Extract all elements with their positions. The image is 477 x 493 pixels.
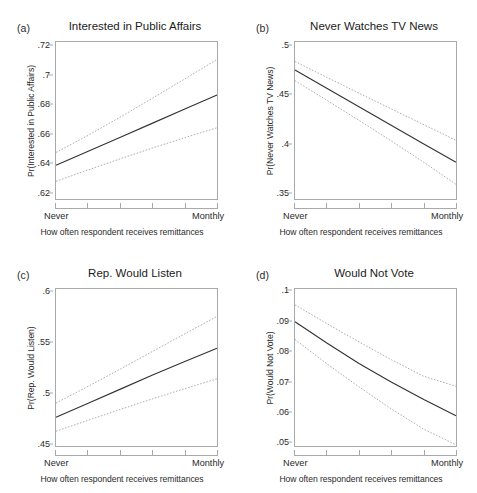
panel-d-ytick-mark — [287, 442, 292, 443]
panel-a-ytick-mark — [48, 163, 53, 164]
panel-b-ci-line — [295, 81, 456, 185]
panel-c: (c) Rep. Would Listen Pr(Rep. Would List… — [0, 247, 238, 493]
panel-a-xtick-mark — [185, 203, 186, 208]
panel-a-ytick-mark — [48, 133, 53, 134]
panel-d-title: Would Not Vote — [279, 267, 469, 279]
panel-c-y-ticks: .45.5.55.6 — [0, 288, 50, 447]
panel-d: (d) Would Not Vote Pr(Would Not Vote) .0… — [239, 247, 477, 493]
panel-a-plot-area — [55, 41, 218, 200]
panel-b-xtick-mark — [456, 203, 457, 208]
panel-d-fit-line — [295, 322, 456, 416]
panel-a-ytick-mark — [48, 74, 53, 75]
panel-d-svg — [295, 289, 456, 446]
panel-b-svg — [295, 42, 456, 199]
panel-a-ytick-mark — [48, 45, 53, 46]
panel-b-tag: (b) — [256, 22, 269, 34]
panel-c-x-axis-title: How often respondent receives remittance… — [22, 474, 222, 484]
panel-c-xtick-mark — [152, 450, 153, 455]
panel-d-plot-area — [294, 288, 457, 447]
panel-c-tag: (c) — [17, 269, 30, 281]
panel-a-xtick-mark — [55, 203, 56, 208]
panel-c-xtick-mark — [217, 450, 218, 455]
panel-b-x-axis-line — [294, 208, 457, 209]
panel-a-xtick-mark — [217, 203, 218, 208]
panel-b-title: Never Watches TV News — [279, 20, 469, 32]
panel-c-xtick-mark — [87, 450, 88, 455]
panel-b: (b) Never Watches TV News Pr(Never Watch… — [239, 0, 477, 246]
panel-c-xtick-mark — [55, 450, 56, 455]
panel-a-xtick-monthly: Monthly — [192, 211, 224, 221]
panel-c-x-axis-line — [55, 455, 218, 456]
panel-b-fit-line — [295, 70, 456, 162]
panel-b-xtick-mark — [424, 203, 425, 208]
panel-b-xtick-mark — [359, 203, 360, 208]
panel-c-ci-line — [56, 379, 217, 431]
panel-b-xtick-monthly: Monthly — [431, 211, 463, 221]
panel-b-xtick-mark — [391, 203, 392, 208]
panel-d-x-axis-title: How often respondent receives remittance… — [261, 474, 461, 484]
panel-c-xtick-never: Never — [44, 458, 69, 468]
figure-four-panel-predicted-probabilities: (a) Interested in Public Affairs Pr(Inte… — [0, 0, 477, 493]
panel-d-xtick-mark — [294, 450, 295, 455]
panel-d-ci-line — [295, 305, 456, 386]
panel-b-ytick-mark — [287, 44, 292, 45]
panel-a-xtick-never: Never — [44, 211, 69, 221]
panel-b-plot-area — [294, 41, 457, 200]
panel-d-ytick-mark — [287, 351, 292, 352]
panel-b-ci-line — [295, 62, 456, 141]
panel-d-tag: (d) — [256, 269, 269, 281]
panel-a-xtick-mark — [120, 203, 121, 208]
panel-a: (a) Interested in Public Affairs Pr(Inte… — [0, 0, 238, 246]
panel-d-ci-line — [295, 339, 456, 444]
panel-b-xtick-mark — [326, 203, 327, 208]
panel-c-plot-area — [55, 288, 218, 447]
panel-a-x-axis-line — [55, 208, 218, 209]
panel-c-title: Rep. Would Listen — [40, 267, 230, 279]
panel-d-xtick-monthly: Monthly — [431, 458, 463, 468]
panel-d-xtick-mark — [391, 450, 392, 455]
panel-c-xtick-mark — [120, 450, 121, 455]
panel-b-xtick-mark — [294, 203, 295, 208]
panel-a-fit-line — [56, 95, 217, 165]
panel-a-title: Interested in Public Affairs — [40, 20, 230, 32]
panel-b-x-axis-title: How often respondent receives remittance… — [261, 227, 461, 237]
panel-d-xtick-mark — [456, 450, 457, 455]
panel-b-xtick-never: Never — [283, 211, 308, 221]
panel-c-ci-line — [56, 316, 217, 403]
panel-a-svg — [56, 42, 217, 199]
panel-d-ytick-mark — [287, 290, 292, 291]
panel-d-x-axis-line — [294, 455, 457, 456]
panel-c-ytick-mark — [48, 392, 53, 393]
panel-d-xtick-mark — [424, 450, 425, 455]
panel-c-fit-line — [56, 348, 217, 417]
panel-d-ytick-mark — [287, 320, 292, 321]
panel-d-ytick-mark — [287, 381, 292, 382]
panel-a-ytick-mark — [48, 104, 53, 105]
panel-a-tag: (a) — [17, 22, 30, 34]
panel-c-svg — [56, 289, 217, 446]
panel-b-ytick-mark — [287, 193, 292, 194]
panel-d-xtick-mark — [326, 450, 327, 455]
panel-d-ytick-mark — [287, 412, 292, 413]
panel-a-x-axis-title: How often respondent receives remittance… — [22, 227, 222, 237]
panel-c-ytick-mark — [48, 291, 53, 292]
panel-d-xtick-never: Never — [283, 458, 308, 468]
panel-a-xtick-mark — [152, 203, 153, 208]
panel-c-xtick-monthly: Monthly — [192, 458, 224, 468]
panel-a-ytick-mark — [48, 192, 53, 193]
panel-d-xtick-mark — [359, 450, 360, 455]
panel-c-xtick-mark — [185, 450, 186, 455]
panel-a-xtick-mark — [87, 203, 88, 208]
panel-b-ytick-mark — [287, 94, 292, 95]
panel-a-y-ticks: .62.64.66.68.7.72 — [0, 41, 50, 200]
panel-c-ytick-mark — [48, 342, 53, 343]
panel-b-ytick-mark — [287, 143, 292, 144]
panel-b-y-ticks: .35.4.45.5 — [239, 41, 289, 200]
panel-d-y-ticks: .05.06.07.08.09.1 — [239, 288, 289, 447]
panel-c-ytick-mark — [48, 443, 53, 444]
